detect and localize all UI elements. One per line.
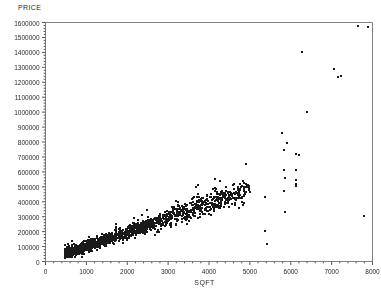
y-tick-label: 500000 xyxy=(0,183,40,190)
scatter-plot-figure: PRICE 0100000200000300000400000500000600… xyxy=(0,0,381,297)
y-tick-label: 1600000 xyxy=(0,19,40,26)
y-tick-label: 1400000 xyxy=(0,49,40,56)
plot-canvas xyxy=(0,0,381,297)
x-tick-label: 1000 xyxy=(79,268,93,275)
x-tick-label: 2000 xyxy=(120,268,134,275)
x-tick-label: 0 xyxy=(44,268,48,275)
y-tick-label: 200000 xyxy=(0,228,40,235)
x-tick-label: 3000 xyxy=(161,268,175,275)
y-tick-label: 1200000 xyxy=(0,79,40,86)
y-tick-label: 0 xyxy=(0,258,40,265)
y-tick-label: 600000 xyxy=(0,168,40,175)
y-tick-label: 1500000 xyxy=(0,34,40,41)
x-tick-label: 8000 xyxy=(365,268,379,275)
x-tick-label: 4000 xyxy=(202,268,216,275)
y-tick-label: 300000 xyxy=(0,213,40,220)
y-tick-label: 800000 xyxy=(0,139,40,146)
y-tick-label: 1000000 xyxy=(0,109,40,116)
y-tick-label: 400000 xyxy=(0,198,40,205)
y-tick-label: 900000 xyxy=(0,124,40,131)
x-tick-label: 7000 xyxy=(324,268,338,275)
x-tick-label: 6000 xyxy=(284,268,298,275)
y-tick-label: 100000 xyxy=(0,243,40,250)
y-tick-label: 1100000 xyxy=(0,94,40,101)
y-tick-label: 1300000 xyxy=(0,64,40,71)
y-tick-label: 700000 xyxy=(0,153,40,160)
x-tick-label: 5000 xyxy=(243,268,257,275)
x-axis-title: SQFT xyxy=(0,279,381,286)
